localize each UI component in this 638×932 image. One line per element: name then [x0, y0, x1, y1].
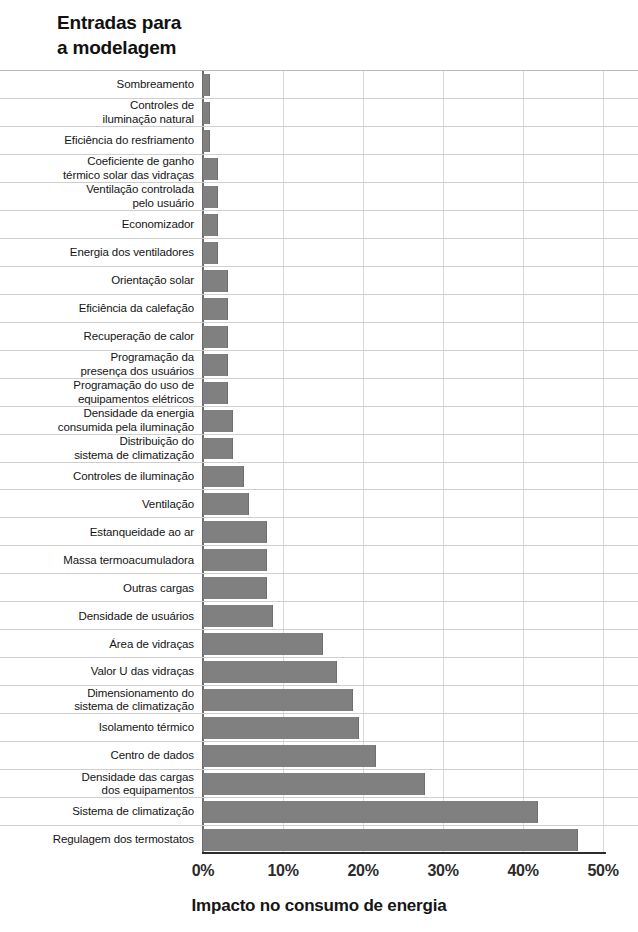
bar-row: Densidade de usuários — [0, 601, 638, 629]
bar-row: Massa termoacumuladora — [0, 545, 638, 573]
category-label: Densidade de usuários — [8, 610, 194, 624]
category-label: Área de vidraças — [8, 638, 194, 652]
bar — [203, 270, 228, 292]
category-label: Sombreamento — [8, 78, 194, 92]
bar — [203, 326, 228, 348]
bar-row: Controles de iluminação — [0, 462, 638, 490]
category-label: Massa termoacumuladora — [8, 554, 194, 568]
bar-row: Energia dos ventiladores — [0, 238, 638, 266]
bar — [203, 801, 538, 823]
x-tick-label: 20% — [333, 862, 393, 880]
bar-row: Controles de iluminação natural — [0, 98, 638, 126]
chart-title: Entradas para a modelagem — [57, 10, 257, 60]
bar-rows: SombreamentoControles de iluminação natu… — [0, 70, 638, 853]
bar — [203, 214, 218, 236]
bar-row: Outras cargas — [0, 573, 638, 601]
x-axis-line — [202, 852, 606, 854]
bar — [203, 242, 218, 264]
bar-row: Centro de dados — [0, 741, 638, 769]
bar-chart: Entradas para a modelagem SombreamentoCo… — [0, 0, 638, 932]
bar — [203, 633, 323, 655]
bar — [203, 605, 273, 627]
category-label: Centro de dados — [8, 749, 194, 763]
bar-row: Área de vidraças — [0, 629, 638, 657]
bar — [203, 773, 425, 795]
bar-row: Eficiência da calefação — [0, 294, 638, 322]
bar — [203, 493, 249, 515]
x-tick-label: 30% — [413, 862, 473, 880]
bar-row: Recuperação de calor — [0, 322, 638, 350]
bar-row: Programação do uso de equipamentos elétr… — [0, 378, 638, 406]
bar-row: Densidade das cargas dos equipamentos — [0, 769, 638, 797]
category-label: Regulagem dos termostatos — [8, 833, 194, 847]
bar — [203, 74, 210, 96]
bar-row: Coeficiente de ganho térmico solar das v… — [0, 154, 638, 182]
x-tick-label: 40% — [493, 862, 553, 880]
bar-row: Isolamento térmico — [0, 713, 638, 741]
bar-row: Ventilação controlada pelo usuário — [0, 182, 638, 210]
x-tick-label: 0% — [173, 862, 233, 880]
bar — [203, 745, 376, 767]
category-label: Coeficiente de ganho térmico solar das v… — [8, 155, 194, 182]
bar-row: Valor U das vidraças — [0, 657, 638, 685]
bar — [203, 382, 228, 404]
bar — [203, 689, 353, 711]
category-label: Isolamento térmico — [8, 721, 194, 735]
bar — [203, 130, 210, 152]
bar-row: Economizador — [0, 210, 638, 238]
category-label: Densidade da energia consumida pela ilum… — [8, 407, 194, 434]
bar — [203, 438, 233, 460]
category-label: Programação do uso de equipamentos elétr… — [8, 379, 194, 406]
bar-row: Dimensionamento do sistema de climatizaç… — [0, 685, 638, 713]
category-label: Recuperação de calor — [8, 330, 194, 344]
bar-row: Regulagem dos termostatos — [0, 825, 638, 853]
bar — [203, 102, 210, 124]
plot-area: SombreamentoControles de iluminação natu… — [0, 70, 638, 853]
bar-row: Distribuição do sistema de climatização — [0, 434, 638, 462]
bar-row: Programação da presença dos usuários — [0, 350, 638, 378]
category-label: Controles de iluminação natural — [8, 99, 194, 126]
bar — [203, 354, 228, 376]
bar — [203, 410, 233, 432]
category-label: Controles de iluminação — [8, 470, 194, 484]
category-label: Eficiência da calefação — [8, 302, 194, 316]
category-label: Sistema de climatização — [8, 805, 194, 819]
bar-row: Sistema de climatização — [0, 797, 638, 825]
bar-row: Densidade da energia consumida pela ilum… — [0, 406, 638, 434]
category-label: Valor U das vidraças — [8, 665, 194, 679]
category-label: Ventilação controlada pelo usuário — [8, 183, 194, 210]
bar — [203, 186, 218, 208]
bar-row: Estanqueidade ao ar — [0, 517, 638, 545]
category-label: Programação da presença dos usuários — [8, 351, 194, 378]
category-label: Densidade das cargas dos equipamentos — [8, 771, 194, 798]
category-label: Distribuição do sistema de climatização — [8, 435, 194, 462]
bar — [203, 521, 267, 543]
x-tick-label: 50% — [573, 862, 633, 880]
category-label: Dimensionamento do sistema de climatizaç… — [8, 687, 194, 714]
category-label: Economizador — [8, 218, 194, 232]
bar — [203, 577, 267, 599]
bar — [203, 549, 267, 571]
x-tick-label: 10% — [253, 862, 313, 880]
x-axis-title: Impacto no consumo de energia — [0, 896, 638, 916]
bar — [203, 298, 228, 320]
bar-row: Orientação solar — [0, 266, 638, 294]
category-label: Estanqueidade ao ar — [8, 526, 194, 540]
category-label: Outras cargas — [8, 582, 194, 596]
category-label: Eficiência do resfriamento — [8, 134, 194, 148]
bar — [203, 661, 337, 683]
bar — [203, 717, 359, 739]
bar-row: Sombreamento — [0, 70, 638, 98]
bar — [203, 829, 578, 851]
category-label: Orientação solar — [8, 274, 194, 288]
bar-row: Ventilação — [0, 489, 638, 517]
category-label: Energia dos ventiladores — [8, 246, 194, 260]
category-label: Ventilação — [8, 498, 194, 512]
bar-row: Eficiência do resfriamento — [0, 126, 638, 154]
bar — [203, 158, 218, 180]
bar — [203, 466, 244, 488]
